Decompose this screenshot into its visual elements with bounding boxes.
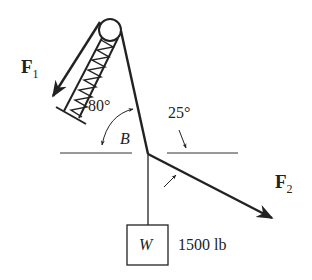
angle-25-pointer-top <box>179 130 186 148</box>
angle-25-pointer-bottom <box>164 175 176 187</box>
f1-letter: F <box>21 56 33 77</box>
node-b-label: B <box>120 130 130 148</box>
angle-25-label: 25° <box>168 104 190 122</box>
f2-subscript: 2 <box>287 182 293 196</box>
f2-letter: F <box>275 171 287 192</box>
weight-value-label: 1500 lb <box>178 236 226 254</box>
f1-subscript: 1 <box>33 67 39 81</box>
diagram-canvas: F1 80° 25° B F2 W 1500 lb <box>0 0 312 280</box>
f2-label: F2 <box>275 171 293 197</box>
f2-arrow <box>148 154 272 218</box>
weight-symbol-label: W <box>139 236 152 254</box>
diagram-drawing <box>0 0 312 280</box>
angle-80-label: 80° <box>88 97 110 115</box>
pulley <box>99 19 121 41</box>
f1-label: F1 <box>21 56 39 82</box>
